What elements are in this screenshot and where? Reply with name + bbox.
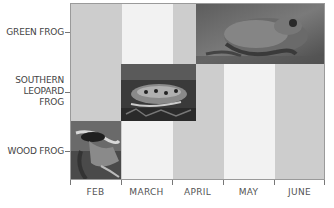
frog-breeding-chart: GREEN FROG SOUTHERN LEOPARD FROG WOOD FR…: [0, 0, 334, 208]
x-label-may: MAY: [223, 187, 274, 197]
green-frog-photo-bar: [196, 4, 325, 64]
wood-frog-image-icon: [71, 121, 121, 180]
x-tick: [274, 180, 275, 185]
southern-leopard-frog-photo-bar: [121, 64, 196, 121]
y-tick-southern-leopard-frog: [65, 92, 70, 93]
southern-leopard-frog-image-icon: [121, 64, 196, 121]
y-label-southern-leopard-frog: SOUTHERN LEOPARD FROG: [15, 75, 64, 108]
x-label-june: JUNE: [274, 187, 325, 197]
y-label-green-frog: GREEN FROG: [6, 27, 64, 38]
green-frog-image-icon: [196, 4, 325, 64]
x-label-april: APRIL: [172, 187, 223, 197]
x-tick: [172, 180, 173, 185]
plot-area: [70, 3, 325, 180]
x-tick: [121, 180, 122, 185]
y-tick-green-frog: [65, 32, 70, 33]
x-label-march: MARCH: [121, 187, 172, 197]
y-label-wood-frog: WOOD FROG: [7, 146, 64, 157]
x-tick: [70, 180, 71, 185]
y-tick-wood-frog: [65, 151, 70, 152]
x-label-feb: FEB: [70, 187, 121, 197]
x-tick: [324, 180, 325, 185]
wood-frog-photo-bar: [71, 121, 121, 180]
x-tick: [223, 180, 224, 185]
